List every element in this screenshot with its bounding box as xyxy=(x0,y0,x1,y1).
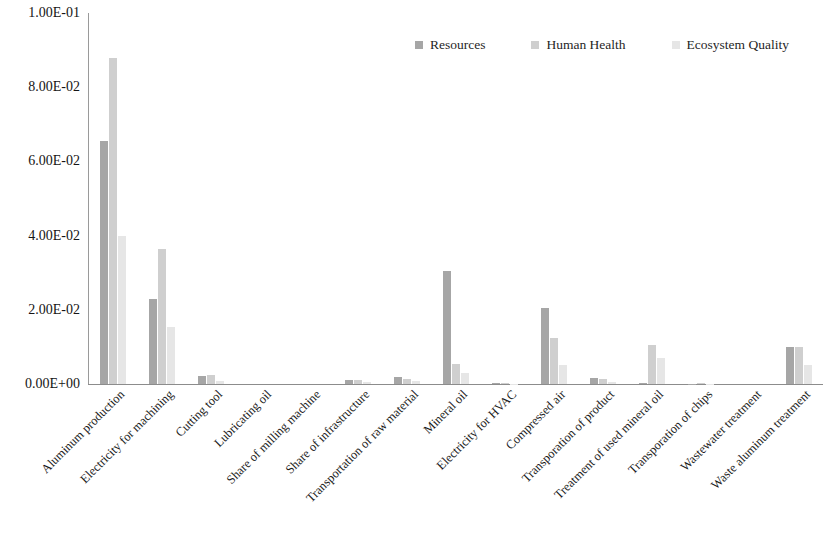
x-axis-line xyxy=(88,384,823,385)
bar-2[interactable] xyxy=(608,382,616,384)
bar-0[interactable] xyxy=(639,383,647,384)
bar-0[interactable] xyxy=(443,271,451,384)
x-tick-label: Aluminum production xyxy=(39,388,128,477)
bar-group xyxy=(236,13,285,384)
bar-group xyxy=(529,13,578,384)
bar-0[interactable] xyxy=(786,347,794,384)
bar-2[interactable] xyxy=(657,358,665,384)
bar-1[interactable] xyxy=(599,379,607,384)
bar-0[interactable] xyxy=(149,299,157,384)
bar-chart: Resources Human Health Ecosystem Quality… xyxy=(0,0,823,540)
x-tick-label: Electricity for machining xyxy=(78,388,177,487)
x-tick-label: Transporation of chips xyxy=(626,388,715,477)
bar-1[interactable] xyxy=(354,380,362,384)
bar-2[interactable] xyxy=(412,381,420,384)
bar-1[interactable] xyxy=(795,347,803,384)
bar-2[interactable] xyxy=(167,327,175,385)
bar-1[interactable] xyxy=(403,379,411,384)
bar-group xyxy=(334,13,383,384)
bar-0[interactable] xyxy=(394,377,402,384)
bar-group xyxy=(285,13,334,384)
x-tick-label: Share of milling machine xyxy=(224,388,323,487)
bar-1[interactable] xyxy=(452,364,460,384)
bar-group xyxy=(676,13,725,384)
bar-0[interactable] xyxy=(198,376,206,384)
x-tick-label: Share of infrastructure xyxy=(283,388,372,477)
y-tick-label: 8.00E-02 xyxy=(28,79,80,95)
bar-2[interactable] xyxy=(118,236,126,384)
y-tick-label: 6.00E-02 xyxy=(28,153,80,169)
y-tick-label: 4.00E-02 xyxy=(28,228,80,244)
bar-1[interactable] xyxy=(648,345,656,384)
bar-group xyxy=(432,13,481,384)
bar-2[interactable] xyxy=(363,382,371,384)
bar-series-container xyxy=(89,13,823,384)
x-tick-label: Waste aluminum treatment xyxy=(708,388,813,493)
bar-1[interactable] xyxy=(697,383,705,384)
bar-group xyxy=(725,13,774,384)
bar-2[interactable] xyxy=(461,373,469,384)
bar-1[interactable] xyxy=(550,338,558,384)
plot-area: 1.00E-018.00E-026.00E-024.00E-022.00E-02… xyxy=(88,13,823,385)
bar-group xyxy=(481,13,530,384)
bar-1[interactable] xyxy=(207,375,215,384)
y-tick-label: 2.00E-02 xyxy=(28,302,80,318)
bar-group xyxy=(578,13,627,384)
x-tick-label: Mineral oil xyxy=(421,388,470,437)
bar-2[interactable] xyxy=(559,365,567,384)
bar-group xyxy=(627,13,676,384)
x-axis-tick-labels: Aluminum productionElectricity for machi… xyxy=(89,388,823,538)
bar-group xyxy=(138,13,187,384)
bar-1[interactable] xyxy=(501,383,509,384)
bar-0[interactable] xyxy=(100,141,108,384)
bar-1[interactable] xyxy=(158,249,166,384)
bar-group xyxy=(774,13,823,384)
bar-0[interactable] xyxy=(541,308,549,384)
bar-group xyxy=(383,13,432,384)
bar-2[interactable] xyxy=(804,365,812,384)
bar-0[interactable] xyxy=(345,380,353,384)
bar-group xyxy=(187,13,236,384)
bar-1[interactable] xyxy=(109,58,117,384)
bar-2[interactable] xyxy=(216,381,224,384)
bar-0[interactable] xyxy=(492,383,500,384)
x-tick-label: Transporation of product xyxy=(519,388,617,486)
y-tick-label: 1.00E-01 xyxy=(28,5,80,21)
bar-0[interactable] xyxy=(590,378,598,384)
bar-group xyxy=(89,13,138,384)
y-tick-label: 0.00E+00 xyxy=(25,376,80,392)
